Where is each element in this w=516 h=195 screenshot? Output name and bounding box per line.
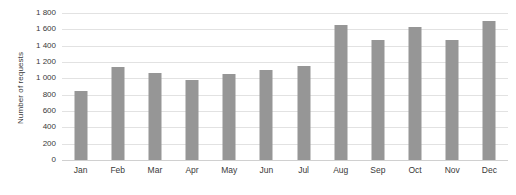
x-tick-label: Jan xyxy=(62,164,99,176)
x-tick-label: Mar xyxy=(136,164,173,176)
bar-slot xyxy=(211,13,248,160)
y-axis-tick-labels: 02004006008001 0001 2001 4001 6001 800 xyxy=(0,13,56,160)
bar[interactable] xyxy=(409,27,422,160)
y-tick-label: 1 000 xyxy=(0,74,56,82)
y-tick-label: 1 800 xyxy=(0,9,56,17)
bar[interactable] xyxy=(186,80,199,160)
bar[interactable] xyxy=(260,70,273,160)
bar-slot xyxy=(174,13,211,160)
x-tick-label: Feb xyxy=(99,164,136,176)
bar[interactable] xyxy=(371,40,384,160)
bar[interactable] xyxy=(74,91,87,160)
x-tick-label: Dec xyxy=(471,164,508,176)
bar-slot xyxy=(99,13,136,160)
y-tick-label: 600 xyxy=(0,107,56,115)
bar[interactable] xyxy=(297,66,310,160)
bar[interactable] xyxy=(111,67,124,160)
x-tick-label: Jun xyxy=(248,164,285,176)
axis-baseline xyxy=(62,160,508,161)
y-tick-label: 1 600 xyxy=(0,25,56,33)
bar[interactable] xyxy=(148,73,161,160)
x-axis-tick-labels: JanFebMarAprMayJunJulAugSepOctNovDec xyxy=(62,164,508,178)
x-tick-label: Sep xyxy=(359,164,396,176)
y-tick-label: 200 xyxy=(0,140,56,148)
bar-slot xyxy=(397,13,434,160)
x-tick-label: Oct xyxy=(397,164,434,176)
bar[interactable] xyxy=(446,40,459,160)
y-tick-label: 1 400 xyxy=(0,42,56,50)
y-tick-label: 400 xyxy=(0,123,56,131)
bar-series xyxy=(62,13,508,160)
x-tick-label: Aug xyxy=(322,164,359,176)
bar[interactable] xyxy=(223,74,236,160)
bar-slot xyxy=(248,13,285,160)
x-tick-label: Nov xyxy=(434,164,471,176)
y-tick-label: 0 xyxy=(0,156,56,164)
bar-slot xyxy=(62,13,99,160)
bar[interactable] xyxy=(334,25,347,160)
y-tick-label: 1 200 xyxy=(0,58,56,66)
bar-slot xyxy=(471,13,508,160)
bar-slot xyxy=(285,13,322,160)
bar[interactable] xyxy=(483,21,496,160)
x-tick-label: Jul xyxy=(285,164,322,176)
bar-chart: Number of requests 02004006008001 0001 2… xyxy=(0,0,516,195)
bar-slot xyxy=(322,13,359,160)
bar-slot xyxy=(434,13,471,160)
x-tick-label: May xyxy=(211,164,248,176)
y-tick-label: 800 xyxy=(0,91,56,99)
x-tick-label: Apr xyxy=(174,164,211,176)
bar-slot xyxy=(136,13,173,160)
bar-slot xyxy=(359,13,396,160)
